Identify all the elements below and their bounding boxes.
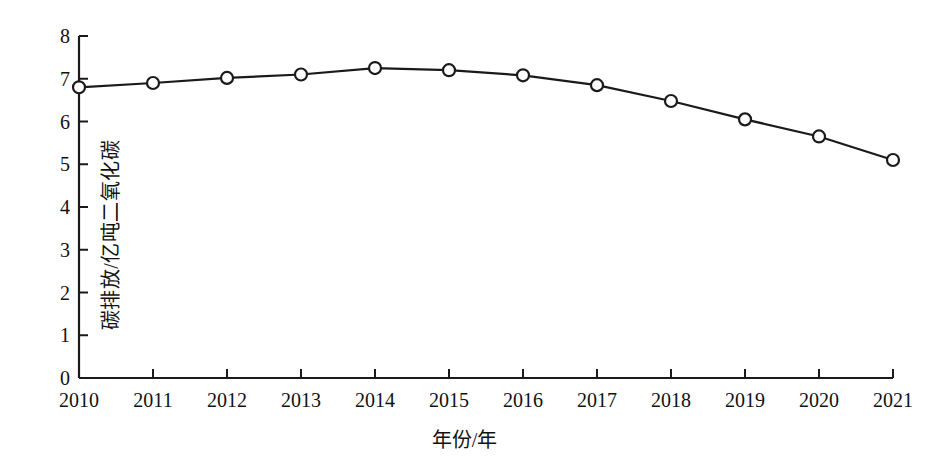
y-axis-tick-label: 7 xyxy=(40,69,70,89)
data-point-marker xyxy=(813,130,825,142)
data-point-marker xyxy=(369,62,381,74)
data-series-line xyxy=(79,68,893,160)
data-point-marker xyxy=(739,113,751,125)
y-axis-tick-label: 4 xyxy=(40,197,70,217)
y-axis-tick-label: 6 xyxy=(40,112,70,132)
x-axis-tick-label: 2011 xyxy=(133,390,172,410)
x-axis-tick-label: 2020 xyxy=(799,390,839,410)
x-axis-tick-label: 2021 xyxy=(873,390,913,410)
y-axis-tick-label: 2 xyxy=(40,283,70,303)
data-point-marker xyxy=(591,79,603,91)
x-axis-ticks xyxy=(153,369,893,378)
x-axis-title: 年份/年 xyxy=(0,424,929,453)
y-axis-tick-label: 0 xyxy=(40,368,70,388)
data-point-marker xyxy=(887,154,899,166)
y-axis-tick-label: 8 xyxy=(40,26,70,46)
y-axis-tick-label: 5 xyxy=(40,154,70,174)
x-axis-tick-label: 2016 xyxy=(503,390,543,410)
data-point-marker xyxy=(295,68,307,80)
data-point-markers xyxy=(73,62,899,166)
x-axis-tick-label: 2012 xyxy=(207,390,247,410)
data-point-marker xyxy=(443,64,455,76)
x-axis-tick-label: 2019 xyxy=(725,390,765,410)
data-point-marker xyxy=(73,81,85,93)
x-axis-tick-label: 2013 xyxy=(281,390,321,410)
x-axis-tick-label: 2018 xyxy=(651,390,691,410)
data-point-marker xyxy=(221,72,233,84)
x-axis-tick-label: 2014 xyxy=(355,390,395,410)
x-axis-tick-label: 2015 xyxy=(429,390,469,410)
data-point-marker xyxy=(517,69,529,81)
x-axis-tick-label: 2010 xyxy=(59,390,99,410)
y-axis-tick-label: 3 xyxy=(40,240,70,260)
y-axis-tick-label: 1 xyxy=(40,325,70,345)
data-point-marker xyxy=(147,77,159,89)
x-axis-tick-label: 2017 xyxy=(577,390,617,410)
data-point-marker xyxy=(665,95,677,107)
carbon-emission-line-chart: 012345678 201020112012201320142015201620… xyxy=(0,0,929,470)
y-axis-title: 碳排放/亿吨二氧化碳 xyxy=(95,140,124,331)
axes xyxy=(79,36,893,378)
